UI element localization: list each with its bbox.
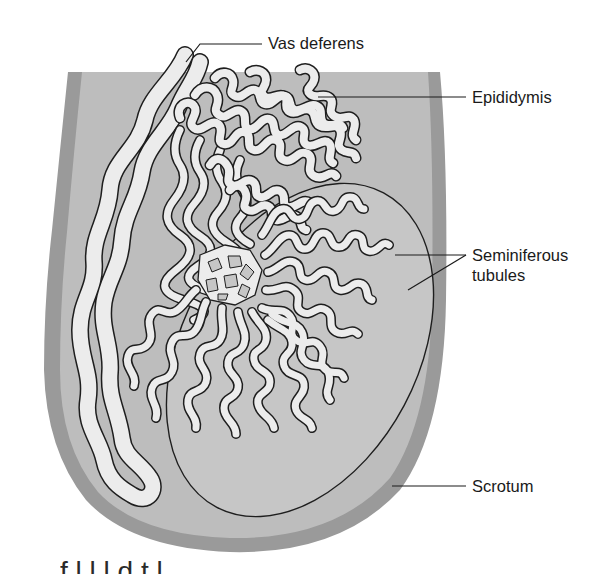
rete-testis bbox=[198, 245, 262, 305]
label-vas-deferens: Vas deferens bbox=[268, 34, 364, 53]
label-epididymis: Epididymis bbox=[472, 88, 552, 107]
cropped-caption-fragment: f l l l d t l bbox=[60, 556, 163, 574]
label-scrotum: Scrotum bbox=[472, 477, 533, 496]
label-seminiferous-line1: Seminiferous bbox=[472, 246, 568, 265]
label-seminiferous-line2: tubules bbox=[472, 266, 525, 285]
